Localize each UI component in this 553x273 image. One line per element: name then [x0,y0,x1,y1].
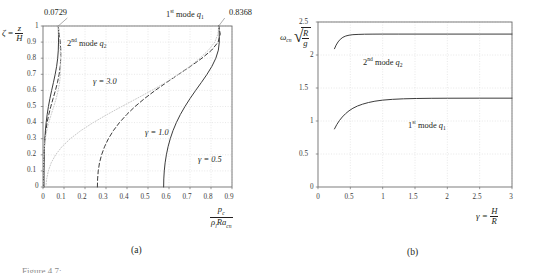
panel-a: ζ = z H 0.0729 0.8368 1st mode q1 1 0.9 … [0,0,280,273]
panel-b: ωcn √ R g 2.5 2 1.5 1 0.5 0 0 0.5 1 1.5 … [280,0,553,273]
figure-container: ζ = z H 0.0729 0.8368 1st mode q1 1 0.9 … [0,0,553,273]
panel-a-plot-area [0,0,280,273]
panel-b-caption: (b) [407,248,418,258]
panel-b-plot-area [280,0,553,273]
panel-a-caption: (a) [131,246,142,256]
figure-caption-partial: Figure 4.7: [22,266,62,273]
